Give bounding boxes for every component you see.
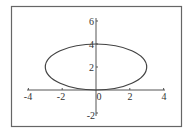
x-tick-label: -4 xyxy=(24,91,32,102)
ellipse-plot: -4 -2 0 2 4 6 4 2 -2 xyxy=(0,0,186,130)
x-tick-label: 2 xyxy=(128,91,133,102)
y-tick-label: 2 xyxy=(89,62,94,73)
x-tick-label: -2 xyxy=(57,91,65,102)
y-tick-label: -2 xyxy=(87,110,95,121)
x-tick-label: 0 xyxy=(97,91,102,102)
x-tick-label: 4 xyxy=(162,91,167,102)
y-tick-label: 6 xyxy=(89,16,94,27)
y-tick-label: 4 xyxy=(89,39,94,50)
